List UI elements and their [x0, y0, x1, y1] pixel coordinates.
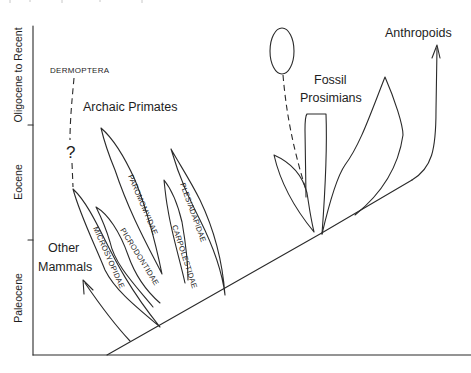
anthropoids-branch — [412, 48, 437, 180]
other-mammals-label-line1: Other — [48, 241, 79, 255]
fossil-prosimians-label-line2: Prosimians — [300, 91, 362, 105]
dermoptera-dashed-branch-lower — [72, 163, 73, 187]
prosimian-center-leaf — [305, 114, 326, 234]
period-label-eocene: Eocene — [12, 164, 24, 200]
top-crop-artifacts — [10, 0, 142, 3]
anthropoids-arrowhead-icon — [432, 45, 440, 58]
phylogeny-diagram: Oligocene to Recent Eocene Paleocene DER… — [0, 0, 471, 373]
anthropoids-label: Anthropoids — [385, 26, 452, 40]
period-label-paleocene: Paleocene — [12, 273, 24, 323]
prosimian-left-leaf — [274, 155, 314, 232]
family-label-paromomyidae: PAROMOMYIDAE — [126, 173, 160, 236]
dermoptera-dashed-branch — [70, 78, 74, 140]
other-mammals-branch — [85, 283, 130, 341]
prosimian-oval — [270, 28, 294, 74]
other-mammals-label-line2: Mammals — [38, 260, 92, 274]
family-label-picrodontidae: PICRODONTIDAE — [118, 226, 161, 287]
fossil-prosimians-label-line1: Fossil — [314, 73, 347, 87]
archaic-primates-label: Archaic Primates — [83, 100, 177, 114]
dermoptera-label: DERMOPTERA — [50, 66, 110, 75]
period-label-oligocene: Oligocene to Recent — [12, 27, 24, 122]
time-axis — [28, 26, 33, 355]
question-mark: ? — [66, 143, 75, 162]
